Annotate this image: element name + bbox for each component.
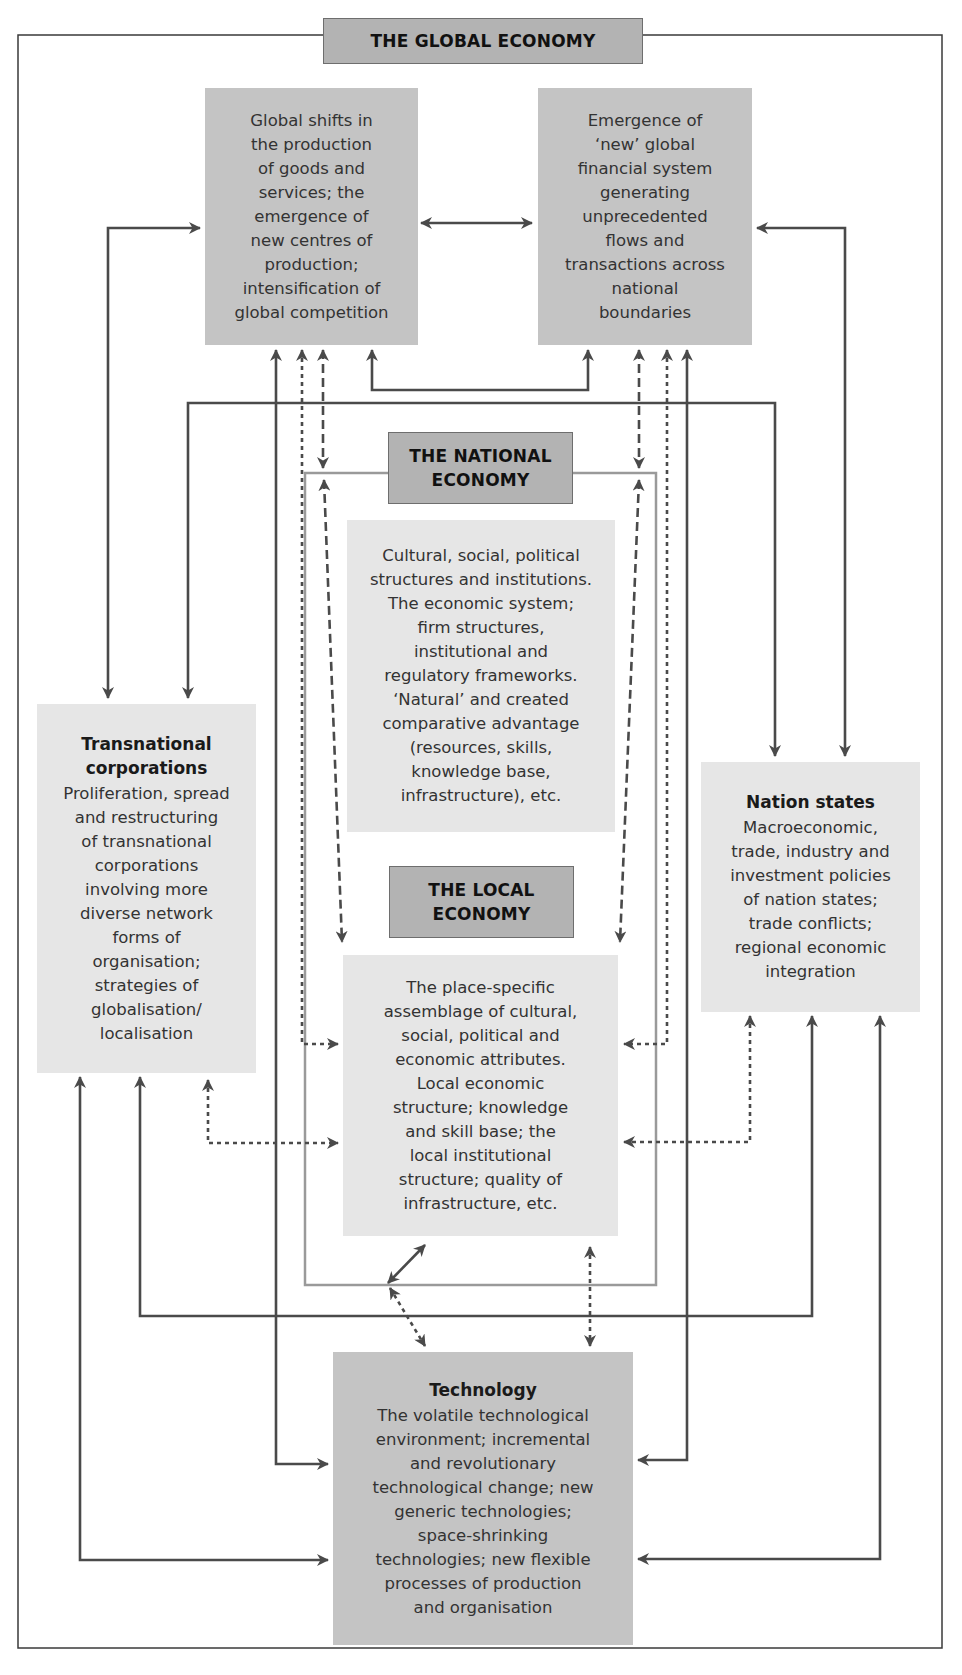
national-economy-text: Cultural, social, political structures a… bbox=[370, 544, 592, 808]
global-economy-title-text: THE GLOBAL ECONOMY bbox=[371, 29, 596, 53]
tnc-box: Transnational corporations Proliferation… bbox=[37, 704, 256, 1073]
global-production-text: Global shifts in the production of goods… bbox=[234, 109, 388, 325]
nation-states-heading: Nation states bbox=[746, 790, 875, 814]
national-economy-title-text: THE NATIONAL ECONOMY bbox=[409, 444, 551, 492]
global-economy-title: THE GLOBAL ECONOMY bbox=[323, 18, 643, 64]
tnc-heading: Transnational corporations bbox=[81, 732, 211, 780]
local-economy-title-text: THE LOCAL ECONOMY bbox=[428, 878, 534, 926]
nation-states-text: Macroeconomic, trade, industry and inves… bbox=[730, 816, 891, 984]
nation-states-box: Nation states Macroeconomic, trade, indu… bbox=[701, 762, 920, 1012]
global-production-box: Global shifts in the production of goods… bbox=[205, 88, 418, 345]
local-economy-title: THE LOCAL ECONOMY bbox=[389, 866, 574, 938]
technology-heading: Technology bbox=[429, 1378, 537, 1402]
national-economy-box: Cultural, social, political structures a… bbox=[347, 520, 615, 832]
local-economy-box: The place-specific assemblage of cultura… bbox=[343, 955, 618, 1236]
national-economy-title: THE NATIONAL ECONOMY bbox=[388, 432, 573, 504]
global-finance-box: Emergence of ‘new’ global financial syst… bbox=[538, 88, 752, 345]
technology-box: Technology The volatile technological en… bbox=[333, 1352, 633, 1645]
global-finance-text: Emergence of ‘new’ global financial syst… bbox=[565, 109, 725, 325]
local-economy-text: The place-specific assemblage of cultura… bbox=[384, 976, 577, 1216]
technology-text: The volatile technological environment; … bbox=[372, 1404, 593, 1620]
tnc-text: Proliferation, spread and restructuring … bbox=[63, 782, 230, 1046]
